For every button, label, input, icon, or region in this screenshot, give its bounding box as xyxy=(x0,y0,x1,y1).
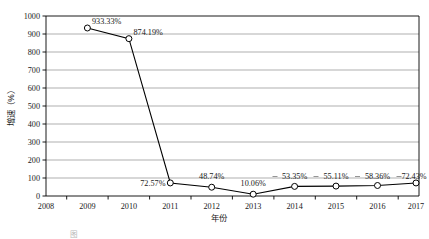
xtick-2010: 2010 xyxy=(121,202,137,211)
xtick-2015: 2015 xyxy=(328,202,344,211)
figure-container: 1000 900 800 700 600 500 400 300 200 100… xyxy=(0,0,429,239)
yaxis-tick-labels: 1000 900 800 700 600 500 400 300 200 100… xyxy=(24,12,40,201)
xtick-2009: 2009 xyxy=(79,202,95,211)
ytick-800: 800 xyxy=(28,48,40,57)
label-2010: 874.19% xyxy=(134,28,164,37)
xtick-2014: 2014 xyxy=(286,202,302,211)
ytick-300: 300 xyxy=(28,138,40,147)
xaxis-ticks xyxy=(67,196,399,200)
data-point-2011[interactable] xyxy=(167,180,173,186)
data-point-2010[interactable] xyxy=(126,36,132,42)
data-point-2015[interactable] xyxy=(333,183,339,189)
ytick-1000: 1000 xyxy=(24,12,40,21)
data-point-2014[interactable] xyxy=(292,183,298,189)
label-2013: 10.06% xyxy=(241,179,266,188)
ytick-500: 500 xyxy=(28,102,40,111)
label-2009: 933.33% xyxy=(92,17,122,26)
data-point-2012[interactable] xyxy=(209,184,215,190)
ytick-100: 100 xyxy=(28,174,40,183)
yaxis-title: 增速（%） xyxy=(6,86,16,125)
xtick-2011: 2011 xyxy=(162,202,178,211)
ytick-900: 900 xyxy=(28,30,40,39)
ytick-400: 400 xyxy=(28,120,40,129)
data-point-2009[interactable] xyxy=(84,25,90,31)
xtick-2017: 2017 xyxy=(408,202,424,211)
label-2014: 53.35% xyxy=(282,172,307,181)
label-2016: 58.36% xyxy=(365,172,390,181)
data-point-2013[interactable] xyxy=(250,191,256,197)
xaxis-title: 年份 xyxy=(211,213,228,223)
xtick-2013: 2013 xyxy=(245,202,261,211)
label-2012: 48.74% xyxy=(199,172,224,181)
xaxis-tick-labels: 2008 2009 2010 2011 2012 2013 2014 2015 … xyxy=(38,202,424,211)
ytick-700: 700 xyxy=(28,66,40,75)
xtick-2016: 2016 xyxy=(369,202,385,211)
figure-caption-prefix: 图 xyxy=(70,230,78,239)
ytick-600: 600 xyxy=(28,84,40,93)
label-2015: 55.11% xyxy=(324,172,349,181)
xtick-2008: 2008 xyxy=(38,202,54,211)
label-2017: 72.43% xyxy=(401,172,426,181)
xtick-2012: 2012 xyxy=(204,202,220,211)
label-2011: 72.57% xyxy=(140,179,165,188)
line-chart: 1000 900 800 700 600 500 400 300 200 100… xyxy=(0,0,429,239)
ytick-200: 200 xyxy=(28,156,40,165)
data-point-2016[interactable] xyxy=(375,182,381,188)
yaxis-ticks xyxy=(43,16,47,196)
ytick-0: 0 xyxy=(36,192,40,201)
